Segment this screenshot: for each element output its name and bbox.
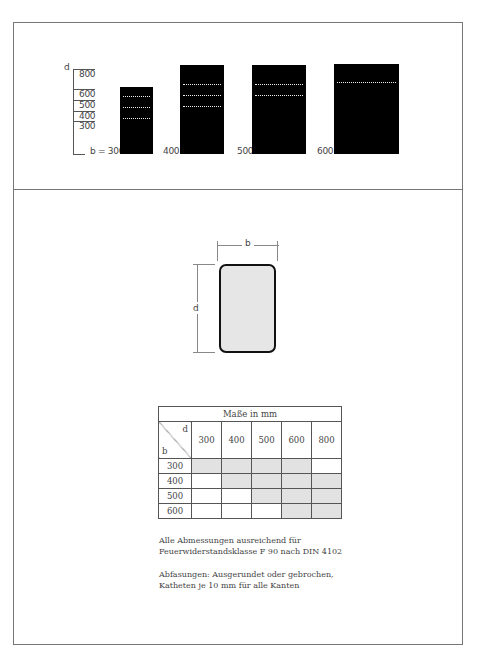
table-row: 600 xyxy=(159,504,342,519)
cell-sufficient xyxy=(282,489,312,504)
d-stripe xyxy=(123,118,150,120)
table-title: Maße in mm xyxy=(159,407,342,422)
width-label: b xyxy=(242,238,254,248)
cell-empty xyxy=(222,489,252,504)
cell-sufficient xyxy=(252,459,282,474)
d-stripe xyxy=(337,82,396,84)
scale-label: 800 xyxy=(79,69,95,79)
d-stripe xyxy=(123,96,150,98)
cell-empty xyxy=(192,474,222,489)
table-row: 400 xyxy=(159,474,342,489)
width-extension-line xyxy=(277,241,278,261)
chamfer-note: Abfasungen: Ausgerundet oder gebrochen, … xyxy=(159,569,369,591)
cell-sufficient xyxy=(282,504,312,519)
cell-empty xyxy=(222,504,252,519)
header-d: 600 xyxy=(282,422,312,459)
row-b: 300 xyxy=(159,459,192,474)
d-stripe xyxy=(123,107,150,109)
row-b: 600 xyxy=(159,504,192,519)
cell-empty xyxy=(192,504,222,519)
header-d: 800 xyxy=(312,422,342,459)
d-stripe xyxy=(255,84,303,86)
d-stripe xyxy=(183,95,221,97)
corner-b-label: b xyxy=(162,446,167,456)
width-extension-line xyxy=(217,241,218,261)
cell-sufficient xyxy=(282,474,312,489)
column-section-b500 xyxy=(252,65,306,154)
scale-base xyxy=(73,154,85,155)
cell-sufficient xyxy=(222,459,252,474)
row-b: 400 xyxy=(159,474,192,489)
cell-sufficient xyxy=(192,459,222,474)
cell-sufficient xyxy=(222,474,252,489)
d-axis-label: d xyxy=(64,62,69,72)
corner-d-label: d xyxy=(183,424,188,434)
depth-extension-line xyxy=(193,352,215,353)
header-d: 400 xyxy=(222,422,252,459)
b-label: 400 xyxy=(163,146,179,156)
column-section-b600 xyxy=(334,64,399,154)
scale-label: 400 xyxy=(79,111,95,121)
section-divider xyxy=(13,189,463,190)
d-stripe xyxy=(183,84,221,86)
row-b: 500 xyxy=(159,489,192,504)
column-section-b300 xyxy=(120,87,153,154)
depth-extension-line xyxy=(193,264,215,265)
depth-label: d xyxy=(193,302,199,314)
cell-sufficient xyxy=(312,474,342,489)
column-section-b400 xyxy=(180,65,224,154)
cell-sufficient xyxy=(312,504,342,519)
cell-empty xyxy=(192,489,222,504)
scale-label: 500 xyxy=(79,100,95,110)
b-label: b = 300 xyxy=(90,146,124,156)
b-label: 500 xyxy=(237,146,253,156)
header-d: 300 xyxy=(192,422,222,459)
cell-sufficient xyxy=(312,489,342,504)
cell-sufficient xyxy=(282,459,312,474)
d-stripe xyxy=(255,95,303,97)
dimensions-table: Maße in mm d b 300 400 500 600 800 300 4… xyxy=(158,406,342,519)
scale-label: 600 xyxy=(79,89,95,99)
table-row: 300 xyxy=(159,459,342,474)
cell-empty xyxy=(252,504,282,519)
b-label: 600 xyxy=(317,146,333,156)
header-d: 500 xyxy=(252,422,282,459)
d-stripe xyxy=(183,106,221,108)
column-cross-section xyxy=(219,264,276,353)
corner-cell: d b xyxy=(159,422,192,459)
cell-sufficient xyxy=(252,474,282,489)
cell-sufficient xyxy=(252,489,282,504)
cell-empty xyxy=(312,459,342,474)
table-row: 500 xyxy=(159,489,342,504)
scale-label: 300 xyxy=(79,121,95,131)
fire-rating-note: Alle Abmessungen ausreichend für Feuerwi… xyxy=(159,535,369,557)
